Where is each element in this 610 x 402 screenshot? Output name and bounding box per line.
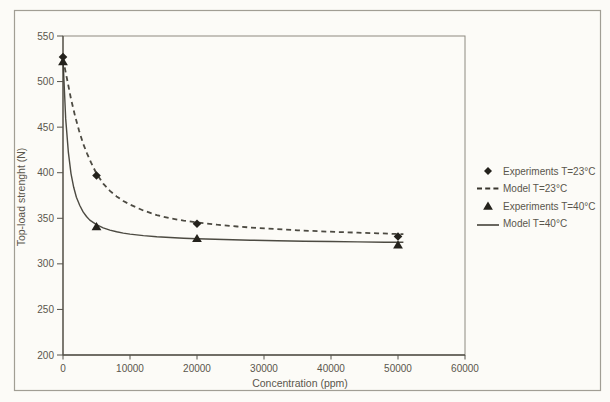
y-axis-tick-label: 500 <box>37 76 54 87</box>
y-axis-tick-label: 400 <box>37 167 54 178</box>
x-axis-tick-label: 0 <box>60 363 66 374</box>
x-axis-tick-label: 30000 <box>250 363 278 374</box>
legend-item: Model T=40°C <box>477 218 567 229</box>
scanned-figure-page: { "chart_data": { "type": "line", "title… <box>0 0 610 402</box>
x-axis-tick-label: 60000 <box>451 363 479 374</box>
y-axis-tick-label: 450 <box>37 122 54 133</box>
x-axis-tick-label: 40000 <box>317 363 345 374</box>
triangle-marker-icon <box>58 57 68 65</box>
legend-label: Experiments T=23°C <box>503 166 595 177</box>
legend-label: Model T=23°C <box>503 183 567 194</box>
diamond-marker-icon <box>484 167 492 175</box>
triangle-marker-icon <box>483 202 493 210</box>
y-axis-tick-label: 350 <box>37 213 54 224</box>
legend-item: Experiments T=40°C <box>483 201 595 212</box>
y-axis-tick-label: 200 <box>37 350 54 361</box>
y-axis-tick-label: 550 <box>37 31 54 42</box>
legend: Experiments T=23°CModel T=23°CExperiment… <box>477 166 595 229</box>
legend-label: Model T=40°C <box>503 218 567 229</box>
y-axis-tick-label: 300 <box>37 258 54 269</box>
model-curve-t40-solid <box>63 59 403 243</box>
experiment-points-t23 <box>59 53 403 241</box>
model-curve-t23-dashed <box>63 59 403 234</box>
x-axis-tick-label: 20000 <box>183 363 211 374</box>
diamond-marker-icon <box>193 219 202 228</box>
legend-item: Model T=23°C <box>477 183 567 194</box>
legend-item: Experiments T=23°C <box>484 166 595 177</box>
plot-frame <box>63 36 465 355</box>
plot-area: 5505004504003503002502000100002000030000… <box>37 31 479 375</box>
legend-label: Experiments T=40°C <box>503 201 595 212</box>
y-axis-title: Top-load strenght (N) <box>15 148 27 247</box>
y-axis-tick-label: 250 <box>37 304 54 315</box>
x-axis-title: Concentration (ppm) <box>252 377 348 389</box>
x-axis-tick-label: 10000 <box>116 363 144 374</box>
top-load-strength-chart: 5505004504003503002502000100002000030000… <box>0 0 610 402</box>
x-axis-tick-label: 50000 <box>384 363 412 374</box>
experiment-points-t40 <box>58 57 403 248</box>
triangle-marker-icon <box>393 240 403 248</box>
